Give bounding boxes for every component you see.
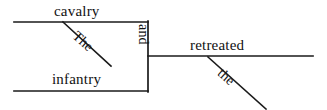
diagram-lines-layer: [0, 0, 327, 110]
verb-word-retreated: retreated: [190, 38, 244, 53]
subject-word-cavalry: cavalry: [54, 4, 100, 19]
subject-word-infantry: infantry: [52, 72, 101, 87]
sentence-diagram: cavalry infantry retreated and The the: [0, 0, 327, 110]
article-lower-slant-line: [208, 57, 266, 109]
conjunction-word-and: and: [136, 24, 150, 45]
